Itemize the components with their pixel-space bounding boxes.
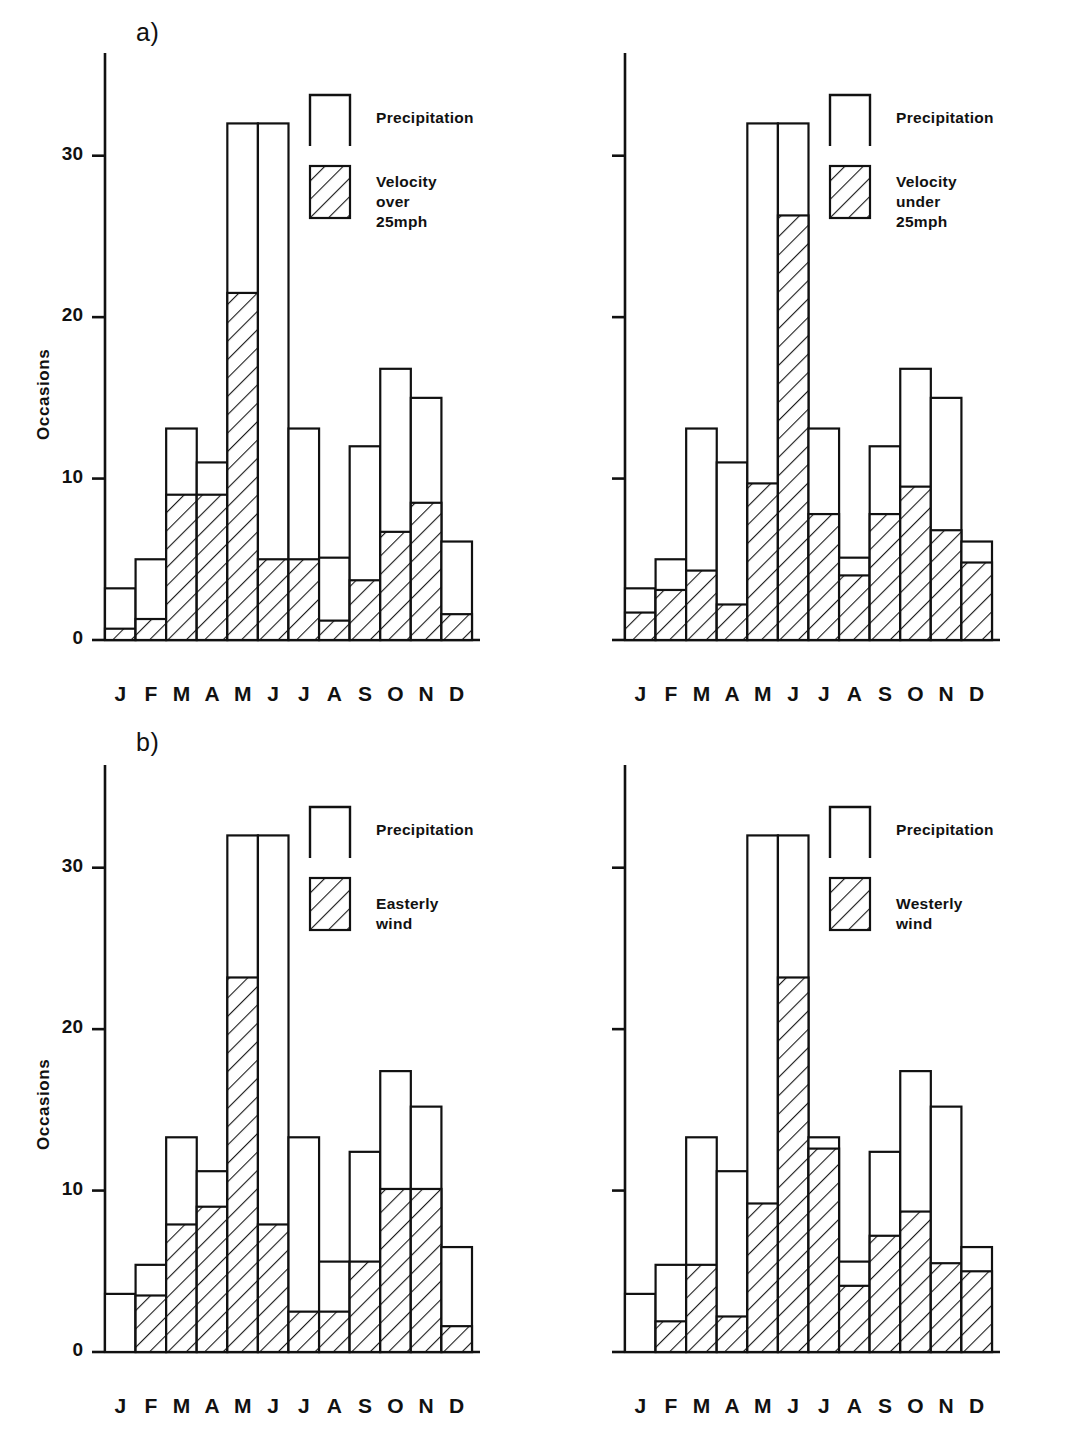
bar-group-F xyxy=(656,559,687,640)
bar-wind-segment xyxy=(411,503,442,640)
bar-wind-segment xyxy=(625,613,656,640)
bar-wind-segment xyxy=(319,1312,350,1352)
bar-wind-segment xyxy=(105,629,136,640)
bar-group-M xyxy=(747,835,778,1352)
bar-group-A xyxy=(717,1171,748,1352)
bar-wind-segment xyxy=(870,1236,901,1352)
bar-group-J xyxy=(625,1294,656,1352)
legend-swatch-open-bar-icon xyxy=(828,92,872,148)
bar-wind-segment xyxy=(136,1296,167,1353)
bar-group-J xyxy=(625,588,656,640)
legend-swatch-hatched-bar-icon xyxy=(308,876,352,932)
bar-wind-segment xyxy=(839,575,870,640)
bar-wind-segment xyxy=(197,1207,228,1352)
legend-swatch-open-bar-icon xyxy=(308,92,352,148)
bar-wind-segment xyxy=(839,1286,870,1352)
legend-swatch-hatched-bar-icon xyxy=(828,164,872,220)
bar-group-J xyxy=(809,429,840,640)
legend-label-precipitation: Precipitation xyxy=(896,820,994,840)
bar-group-S xyxy=(350,1152,381,1352)
bar-wind-segment xyxy=(961,1271,992,1352)
legend-label-wind: Velocity under 25mph xyxy=(896,172,957,232)
bar-group-M xyxy=(686,429,717,640)
bar-group-J xyxy=(809,1137,840,1352)
bar-wind-segment xyxy=(931,1263,962,1352)
bar-group-J xyxy=(105,588,136,640)
bar-wind-segment xyxy=(900,487,931,640)
bar-group-N xyxy=(931,398,962,640)
bar-wind-segment xyxy=(656,1321,687,1352)
panel-a-y-axis-label: Occasions xyxy=(34,349,54,440)
bar-group-N xyxy=(931,1107,962,1352)
bar-wind-segment xyxy=(289,559,320,640)
bar-group-A xyxy=(717,462,748,640)
bar-wind-segment xyxy=(319,621,350,640)
bar-wind-segment xyxy=(778,215,809,640)
bar-group-N xyxy=(411,1107,442,1352)
figure-root: a) Occasions 0102030JFMAMJJASONDPrecipit… xyxy=(0,0,1083,1435)
bar-group-D xyxy=(441,542,472,640)
bar-precipitation xyxy=(105,1294,136,1352)
bar-group-J xyxy=(289,1137,320,1352)
bar-wind-segment xyxy=(441,614,472,640)
bar-group-O xyxy=(380,369,411,640)
bar-group-O xyxy=(900,1071,931,1352)
panel-b-y-axis-label: Occasions xyxy=(34,1059,54,1150)
bar-wind-segment xyxy=(717,604,748,640)
bar-group-O xyxy=(380,1071,411,1352)
bar-group-J xyxy=(778,123,809,640)
y-tick-label: 0 xyxy=(43,1339,83,1361)
bar-group-J xyxy=(289,429,320,640)
bar-group-A xyxy=(319,558,350,640)
bar-group-M xyxy=(166,1137,197,1352)
bar-group-M xyxy=(227,835,258,1352)
bar-group-M xyxy=(686,1137,717,1352)
y-tick-label: 0 xyxy=(43,627,83,649)
bar-wind-segment xyxy=(380,532,411,640)
bar-wind-segment xyxy=(289,1312,320,1352)
bar-wind-segment xyxy=(136,619,167,640)
bar-group-S xyxy=(350,446,381,640)
bar-group-D xyxy=(441,1247,472,1352)
bar-group-F xyxy=(656,1265,687,1352)
bar-wind-segment xyxy=(778,977,809,1352)
bar-wind-segment xyxy=(809,514,840,640)
bar-wind-segment xyxy=(870,514,901,640)
bar-wind-segment xyxy=(258,559,289,640)
bar-wind-segment xyxy=(166,495,197,640)
bar-group-F xyxy=(136,559,167,640)
legend-swatch-hatched-bar-icon xyxy=(828,876,872,932)
bar-group-F xyxy=(136,1265,167,1352)
bar-group-A xyxy=(319,1262,350,1352)
bar-group-M xyxy=(166,429,197,640)
legend-swatch-hatched-bar-icon xyxy=(308,164,352,220)
bar-group-M xyxy=(227,123,258,640)
bar-group-S xyxy=(870,446,901,640)
bar-wind-segment xyxy=(441,1326,472,1352)
chart-a-left: 0102030JFMAMJJASONDPrecipitationVelocity… xyxy=(60,30,530,670)
bar-group-S xyxy=(870,1152,901,1352)
bar-wind-segment xyxy=(747,483,778,640)
bar-group-A xyxy=(839,558,870,640)
legend-label-wind: Easterly wind xyxy=(376,894,439,934)
y-tick-label: 20 xyxy=(43,1016,83,1038)
bar-group-J xyxy=(258,835,289,1352)
chart-b-right: JFMAMJJASONDPrecipitationWesterly wind xyxy=(580,742,1050,1382)
bar-wind-segment xyxy=(656,590,687,640)
y-tick-label: 10 xyxy=(43,466,83,488)
y-tick-label: 10 xyxy=(43,1178,83,1200)
bar-group-O xyxy=(900,369,931,640)
chart-a-right: JFMAMJJASONDPrecipitationVelocity under … xyxy=(580,30,1050,670)
bar-group-D xyxy=(961,542,992,640)
bar-group-N xyxy=(411,398,442,640)
legend-swatch-open-bar-icon xyxy=(828,804,872,860)
figure-caption xyxy=(8,1412,1078,1430)
bar-wind-segment xyxy=(380,1189,411,1352)
bar-wind-segment xyxy=(411,1189,442,1352)
bar-wind-segment xyxy=(747,1203,778,1352)
legend-swatch-open-bar-icon xyxy=(308,804,352,860)
panel-a: a) Occasions 0102030JFMAMJJASONDPrecipit… xyxy=(0,0,1083,700)
bar-group-D xyxy=(961,1247,992,1352)
legend-label-wind: Velocity over 25mph xyxy=(376,172,437,232)
bar-wind-segment xyxy=(197,495,228,640)
